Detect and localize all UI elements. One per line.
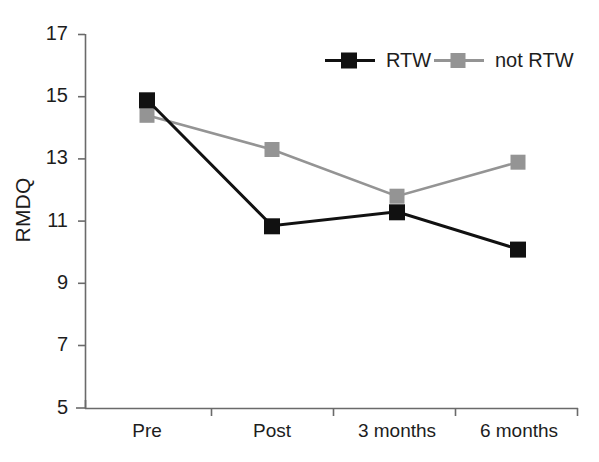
data-point-not-rtw-3months xyxy=(390,189,405,204)
data-point-rtw-3months xyxy=(389,204,405,220)
data-point-rtw-6months xyxy=(510,242,526,258)
data-point-not-rtw-pre xyxy=(140,108,155,123)
y-axis-ticks xyxy=(76,35,85,409)
y-tick-label-17: 17 xyxy=(28,22,68,45)
chart-container: RMDQ 17 15 13 11 9 7 5 Pre Post 3 months… xyxy=(0,0,599,462)
legend-label-rtw: RTW xyxy=(386,49,431,72)
y-tick-label-5: 5 xyxy=(28,396,68,419)
y-tick-label-15: 15 xyxy=(28,84,68,107)
y-tick-label-7: 7 xyxy=(28,333,68,356)
series-not-rtw xyxy=(140,108,526,204)
x-tick-label-3months: 3 months xyxy=(337,420,457,442)
data-point-not-rtw-6months xyxy=(511,155,526,170)
y-tick-label-11: 11 xyxy=(28,209,68,232)
y-tick-label-9: 9 xyxy=(28,271,68,294)
x-tick-label-post: Post xyxy=(222,420,322,442)
legend-marker-not-rtw xyxy=(434,53,484,68)
y-tick-label-13: 13 xyxy=(28,146,68,169)
legend-marker-rtw xyxy=(325,53,375,69)
data-point-not-rtw-post xyxy=(265,142,280,157)
x-tick-label-6months: 6 months xyxy=(459,420,579,442)
data-point-rtw-post xyxy=(264,218,280,234)
data-point-rtw-pre xyxy=(139,92,155,108)
x-tick-label-pre: Pre xyxy=(97,420,197,442)
legend-label-not-rtw: not RTW xyxy=(495,49,574,72)
